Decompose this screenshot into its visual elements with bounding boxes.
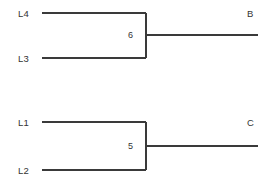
root-label-c: C	[247, 118, 254, 128]
root-label-b: B	[247, 9, 254, 19]
leaf-label-l3: L3	[18, 54, 29, 64]
dendrogram-lines	[0, 0, 271, 184]
leaf-label-l2: L2	[18, 166, 29, 176]
leaf-label-l1: L1	[18, 118, 29, 128]
merge-node-label-6: 6	[128, 31, 133, 40]
dendrogram-figure: L4 L3 6 B L1 L2 5 C	[0, 0, 271, 184]
leaf-label-l4: L4	[18, 9, 29, 19]
merge-node-label-5: 5	[128, 142, 133, 151]
